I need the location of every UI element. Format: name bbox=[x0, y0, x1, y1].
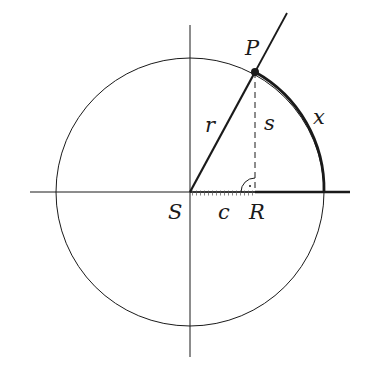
point-P bbox=[251, 68, 259, 76]
label-r: r bbox=[205, 113, 217, 137]
label-x: x bbox=[313, 105, 325, 129]
label-s: s bbox=[264, 111, 275, 135]
label-c: c bbox=[218, 200, 230, 224]
right-angle-dot bbox=[249, 185, 251, 187]
label-R: R bbox=[248, 200, 265, 224]
label-S: S bbox=[168, 200, 182, 224]
ray-extension bbox=[255, 13, 287, 72]
label-P: P bbox=[244, 36, 260, 60]
radius-r bbox=[190, 72, 255, 192]
right-angle-marker bbox=[241, 178, 255, 192]
unit-circle-diagram: P S R r s c x bbox=[0, 0, 369, 368]
